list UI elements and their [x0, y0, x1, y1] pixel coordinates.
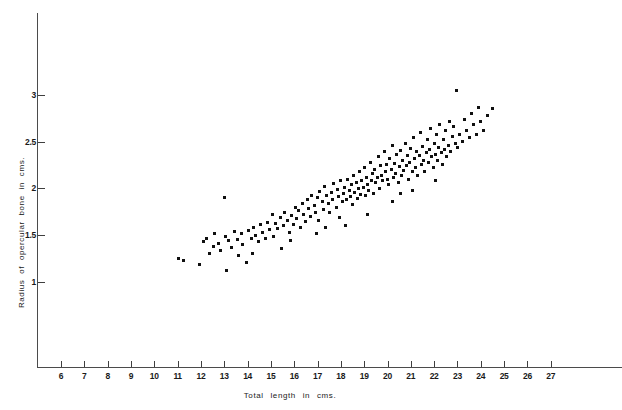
scatter-point	[324, 226, 327, 229]
scatter-point	[406, 154, 409, 157]
scatter-point	[339, 179, 342, 182]
scatter-point	[429, 127, 432, 130]
scatter-point	[395, 153, 398, 156]
scatter-point	[364, 194, 367, 197]
scatter-point	[372, 192, 375, 195]
scatter-point	[309, 215, 312, 218]
scatter-point	[292, 223, 295, 226]
scatter-point	[445, 155, 448, 158]
scatter-point	[452, 125, 455, 128]
scatter-point	[456, 146, 459, 149]
scatter-point	[233, 230, 236, 233]
scatter-point	[407, 178, 410, 181]
scatter-point	[344, 224, 347, 227]
scatter-point	[322, 208, 325, 211]
scatter-point	[306, 198, 309, 201]
scatter-point	[482, 129, 485, 132]
scatter-point	[245, 261, 248, 264]
scatter-point	[236, 238, 239, 241]
scatter-point	[376, 176, 379, 179]
x-axis-title: Total length in cms.	[200, 391, 380, 400]
scatter-point	[227, 239, 230, 242]
scatter-point	[337, 195, 340, 198]
scatter-point	[486, 114, 489, 117]
scatter-point	[374, 181, 377, 184]
scatter-point	[444, 129, 447, 132]
scatter-point	[390, 168, 393, 171]
scatter-point	[336, 188, 339, 191]
scatter-point	[397, 181, 400, 184]
scatter-point	[370, 179, 373, 182]
scatter-point	[358, 170, 361, 173]
scatter-point	[283, 211, 286, 214]
scatter-point	[405, 164, 408, 167]
scatter-point	[177, 257, 180, 260]
scatter-point	[454, 142, 457, 145]
scatter-point	[367, 189, 370, 192]
scatter-point	[432, 166, 435, 169]
scatter-point	[341, 200, 344, 203]
scatter-point	[321, 200, 324, 203]
scatter-point	[225, 269, 228, 272]
scatter-point	[342, 192, 345, 195]
scatter-point	[381, 179, 384, 182]
scatter-point	[286, 219, 289, 222]
scatter-point	[310, 194, 313, 197]
scatter-point	[426, 138, 429, 141]
scatter-point	[411, 170, 414, 173]
scatter-point	[274, 222, 277, 225]
scatter-point	[349, 195, 352, 198]
scatter-point	[316, 196, 319, 199]
scatter-point	[385, 163, 388, 166]
scatter-point	[323, 185, 326, 188]
scatter-point	[378, 187, 381, 190]
scatter-point	[468, 136, 471, 139]
scatter-point	[213, 232, 216, 235]
scatter-point	[247, 229, 250, 232]
scatter-point	[294, 206, 297, 209]
scatter-point	[369, 161, 372, 164]
scatter-point	[455, 89, 458, 92]
scatter-point	[261, 231, 264, 234]
scatter-point	[297, 209, 300, 212]
scatter-point	[257, 240, 260, 243]
scatter-point	[366, 183, 369, 186]
scatter-point	[402, 169, 405, 172]
scatter-point	[271, 213, 274, 216]
scatter-point	[250, 237, 253, 240]
scatter-point	[421, 145, 424, 148]
scatter-point	[350, 183, 353, 186]
scatter-point	[307, 207, 310, 210]
scatter-point	[355, 181, 358, 184]
scatter-point	[398, 165, 401, 168]
scatter-point	[282, 224, 285, 227]
scatter-point	[479, 120, 482, 123]
scatter-point	[198, 263, 201, 266]
scatter-point	[357, 187, 360, 190]
scatter-point	[327, 202, 330, 205]
scatter-point	[205, 237, 208, 240]
scatter-point	[477, 106, 480, 109]
scatter-point	[360, 179, 363, 182]
scatter-point	[463, 118, 466, 121]
scatter-point	[219, 249, 222, 252]
scatter-point	[299, 226, 302, 229]
scatter-point	[351, 203, 354, 206]
scatter-point	[359, 193, 362, 196]
scatter-point	[420, 163, 423, 166]
scatter-point	[251, 252, 254, 255]
scatter-point	[313, 204, 316, 207]
scatter-point	[414, 166, 417, 169]
scatter-point	[380, 174, 383, 177]
scatter-point	[383, 150, 386, 153]
scatter-point	[427, 161, 430, 164]
scatter-point	[304, 220, 307, 223]
scatter-point	[325, 194, 328, 197]
scatter-point	[387, 183, 390, 186]
scatter-point	[272, 235, 275, 238]
scatter-point	[279, 216, 282, 219]
scatter-point	[237, 254, 240, 257]
scatter-point	[328, 211, 331, 214]
scatter-point	[302, 213, 305, 216]
scatter-point	[224, 235, 227, 238]
